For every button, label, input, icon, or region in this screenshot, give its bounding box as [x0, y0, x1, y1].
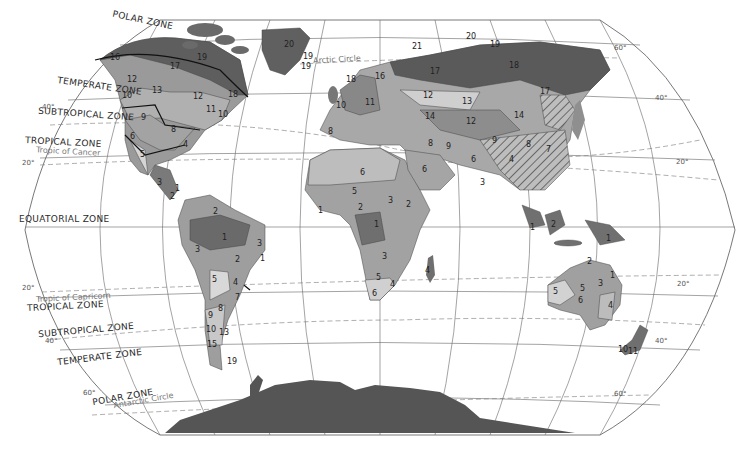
degree-label: 20°: [22, 284, 34, 292]
degree-label: 60°: [614, 44, 626, 52]
region-number: 6: [422, 165, 427, 174]
degree-label: 40°: [655, 94, 667, 102]
region-number: 2: [170, 192, 175, 201]
region-number: 3: [382, 252, 387, 261]
degree-label: 40°: [42, 103, 54, 111]
region-number: 21: [412, 42, 422, 51]
region-number: 4: [390, 280, 395, 289]
region-number: 2: [406, 200, 411, 209]
region-number: 5: [376, 273, 381, 282]
region-number: 5: [352, 187, 357, 196]
region-number: 12: [127, 75, 137, 84]
region-number: 14: [425, 112, 435, 121]
region-number: 3: [598, 279, 603, 288]
region-number: 6: [471, 155, 476, 164]
region-number: 3: [257, 239, 262, 248]
region-number: 3: [157, 178, 162, 187]
region-number: 7: [235, 293, 240, 302]
region-number: 4: [509, 155, 514, 164]
region-number: 1: [318, 206, 323, 215]
region-number: 6: [130, 132, 135, 141]
region-number: 19: [303, 52, 313, 61]
region-number: 13: [219, 328, 229, 337]
region-number: 10: [206, 325, 216, 334]
region-number: 1: [606, 234, 611, 243]
region-number: 20: [466, 32, 476, 41]
region-number: 1: [175, 184, 180, 193]
region-number: 1: [610, 271, 615, 280]
region-number: 17: [430, 67, 440, 76]
region-number: 1: [222, 233, 227, 242]
region-number: 1: [530, 223, 535, 232]
region-number: 5: [580, 284, 585, 293]
degree-label: 60°: [83, 389, 95, 397]
region-number: 19: [227, 357, 237, 366]
degree-label: 40°: [655, 337, 667, 345]
region-number: 5: [212, 275, 217, 284]
region-number: 3: [388, 196, 393, 205]
region-number: 13: [462, 97, 472, 106]
region-number: 10: [218, 110, 228, 119]
region-number: 10: [122, 91, 132, 100]
region-number: 18: [346, 75, 356, 84]
region-number: 11: [365, 98, 375, 107]
region-number: 4: [233, 278, 238, 287]
zone-label-equatorial: EQUATORIAL ZONE: [19, 214, 110, 224]
region-number: 19: [301, 62, 311, 71]
region-number: 8: [526, 140, 531, 149]
region-number: 16: [375, 72, 385, 81]
region-number: 2: [551, 220, 556, 229]
degree-label: 20°: [677, 280, 689, 288]
region-number: 8: [428, 139, 433, 148]
region-number: 17: [170, 62, 180, 71]
region-number: 5: [553, 287, 558, 296]
region-number: 4: [608, 301, 613, 310]
region-number: 8: [328, 127, 333, 136]
region-number: 1: [374, 220, 379, 229]
degree-label: 40°: [45, 337, 57, 345]
region-number: 19: [197, 53, 207, 62]
region-number: 6: [372, 289, 377, 298]
region-number: 12: [466, 117, 476, 126]
region-number: 18: [509, 61, 519, 70]
region-number: 19: [490, 40, 500, 49]
region-number: 9: [208, 311, 213, 320]
region-number: 15: [207, 340, 217, 349]
region-number: 14: [514, 111, 524, 120]
region-number: 3: [195, 245, 200, 254]
region-number: 2: [235, 255, 240, 264]
region-number: 6: [578, 296, 583, 305]
region-number: 2: [358, 203, 363, 212]
region-number: 10: [618, 345, 628, 354]
degree-label: 20°: [676, 158, 688, 166]
degree-label: 60°: [614, 390, 626, 398]
region-number: 1: [260, 254, 265, 263]
region-number: 9: [446, 142, 451, 151]
region-number: 9: [492, 136, 497, 145]
degree-label: 20°: [22, 159, 34, 167]
region-number: 6: [360, 168, 365, 177]
region-number: 8: [218, 304, 223, 313]
region-number: 12: [423, 91, 433, 100]
region-number: 11: [628, 347, 638, 356]
region-number: 5: [140, 150, 145, 159]
region-number: 9: [141, 113, 146, 122]
region-number: 11: [206, 105, 216, 114]
region-number: 8: [171, 125, 176, 134]
region-number: 18: [228, 90, 238, 99]
region-number: 2: [213, 207, 218, 216]
region-number: 16: [110, 53, 120, 62]
region-number: 4: [425, 266, 430, 275]
region-number: 7: [546, 145, 551, 154]
region-number: 2: [587, 257, 592, 266]
region-number: 20: [284, 40, 294, 49]
region-number: 10: [336, 101, 346, 110]
region-number: 17: [540, 87, 550, 96]
region-number: 12: [193, 92, 203, 101]
region-number: 3: [480, 178, 485, 187]
region-number: 4: [183, 140, 188, 149]
region-number: 13: [152, 86, 162, 95]
